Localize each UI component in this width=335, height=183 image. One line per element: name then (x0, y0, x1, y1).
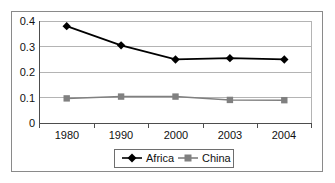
ytick-label-0.2: 0.2 (20, 66, 35, 78)
diamond-marker (171, 55, 179, 63)
diamond-marker (226, 54, 234, 62)
legend-label-china: China (202, 152, 232, 164)
y-axis: 0.4 0.3 0.2 0.1 0 (20, 15, 40, 129)
series-line-africa (67, 26, 285, 59)
xtick-label-2003: 2003 (218, 129, 242, 141)
data-series-layer (63, 22, 289, 103)
ytick-label-0.3: 0.3 (20, 41, 35, 53)
diamond-marker (117, 41, 125, 49)
ytick-label-0: 0 (29, 117, 35, 129)
square-marker (64, 95, 70, 101)
square-marker (281, 97, 287, 103)
x-axis: 1980 1990 2000 2003 2004 (39, 124, 312, 142)
diamond-marker (63, 22, 71, 30)
legend: Africa China (114, 149, 233, 167)
line-chart: 0.4 0.3 0.2 0.1 0 1980 1990 2000 2003 20… (12, 12, 322, 171)
chart-frame: 0.4 0.3 0.2 0.1 0 1980 1990 2000 2003 20… (11, 11, 323, 172)
chart-figure: 0.4 0.3 0.2 0.1 0 1980 1990 2000 2003 20… (0, 0, 335, 183)
series-africa (63, 22, 289, 64)
square-marker (227, 97, 233, 103)
xtick-label-2000: 2000 (164, 129, 188, 141)
xtick-label-1990: 1990 (109, 129, 133, 141)
series-china (64, 93, 288, 103)
xtick-label-2004: 2004 (272, 129, 296, 141)
square-marker (118, 93, 124, 99)
xtick-label-1980: 1980 (55, 129, 79, 141)
square-marker (172, 93, 178, 99)
legend-label-africa: Africa (146, 152, 175, 164)
ytick-label-0.4: 0.4 (20, 15, 35, 27)
diamond-marker (280, 55, 288, 63)
ytick-label-0.1: 0.1 (20, 92, 35, 104)
square-marker (185, 155, 192, 162)
